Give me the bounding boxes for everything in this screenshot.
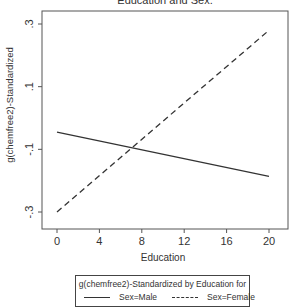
x-tick-label: 20	[263, 235, 275, 247]
legend-label-male: Sex=Male	[119, 292, 157, 302]
legend-title: g(chemfree2)-Standardized by Education f…	[76, 279, 249, 289]
chart-title: Education and Sex.	[117, 0, 212, 6]
legend-item-female: Sex=Female	[172, 291, 255, 303]
x-tick-label: 8	[139, 235, 145, 247]
y-axis-label: g(chemfree2)-Standardized	[4, 47, 15, 163]
y-tick-label: -.1	[23, 143, 35, 156]
dashed-line-swatch-icon	[172, 297, 198, 298]
legend-row: Sex=Male Sex=Female	[82, 291, 243, 303]
y-tick-label: .1	[23, 82, 35, 91]
y-tick-label: -.3	[23, 206, 35, 219]
x-tick-label: 4	[96, 235, 102, 247]
x-tick-label: 16	[220, 235, 232, 247]
legend-label-female: Sex=Female	[207, 292, 255, 302]
x-tick-label: 12	[178, 235, 190, 247]
solid-line-swatch-icon	[84, 297, 110, 298]
legend-item-male: Sex=Male	[84, 291, 157, 303]
x-axis: 048121620	[54, 229, 275, 247]
x-axis-label: Education	[141, 252, 185, 263]
x-tick-label: 0	[54, 235, 60, 247]
y-axis: -.3-.1.1.3	[23, 19, 42, 218]
y-tick-label: .3	[23, 19, 35, 28]
legend: g(chemfree2)-Standardized by Education f…	[75, 275, 250, 307]
